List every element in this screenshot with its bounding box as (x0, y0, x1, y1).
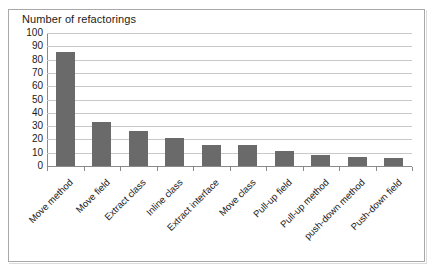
y-axis-tick-label: 90 (21, 41, 43, 51)
y-axis-tick-label: 40 (21, 108, 43, 118)
y-axis-tick-label: 60 (21, 81, 43, 91)
y-axis-tick-label: 70 (21, 68, 43, 78)
x-axis-tick (120, 167, 121, 171)
gridline (47, 113, 412, 114)
x-axis-tick (303, 167, 304, 171)
gridline (47, 33, 412, 34)
x-axis-tick (157, 167, 158, 171)
x-axis-tick (230, 167, 231, 171)
bar[interactable] (202, 145, 221, 166)
gridline (47, 100, 412, 101)
x-axis-tick (193, 167, 194, 171)
y-axis-tick-label: 0 (21, 161, 43, 171)
y-axis-tick-label: 20 (21, 134, 43, 144)
bar[interactable] (275, 151, 294, 166)
bar[interactable] (56, 52, 75, 166)
chart-axis-title: Number of refactorings (22, 13, 136, 25)
gridline (47, 86, 412, 87)
gridline (47, 73, 412, 74)
y-axis-tick-label: 50 (21, 95, 43, 105)
plot-area (47, 33, 412, 166)
figure: Number of refactorings 10090807060504030… (0, 0, 436, 274)
bar[interactable] (311, 155, 330, 166)
x-axis-tick (412, 167, 413, 171)
gridline (47, 46, 412, 47)
y-axis-tick-label: 10 (21, 148, 43, 158)
gridline (47, 60, 412, 61)
x-axis-tick (339, 167, 340, 171)
bar[interactable] (129, 131, 148, 166)
bar[interactable] (384, 158, 403, 166)
y-axis-tick-label: 80 (21, 55, 43, 65)
bar[interactable] (165, 138, 184, 166)
bar[interactable] (92, 122, 111, 166)
x-axis-tick (47, 167, 48, 171)
y-axis-tick-labels: 1009080706050403020100 (19, 33, 43, 166)
x-axis-tick (84, 167, 85, 171)
y-axis-tick-label: 30 (21, 121, 43, 131)
x-axis-tick (376, 167, 377, 171)
bar[interactable] (348, 157, 367, 166)
x-axis-tick (266, 167, 267, 171)
bar[interactable] (238, 145, 257, 166)
y-axis-tick-label: 100 (21, 28, 43, 38)
